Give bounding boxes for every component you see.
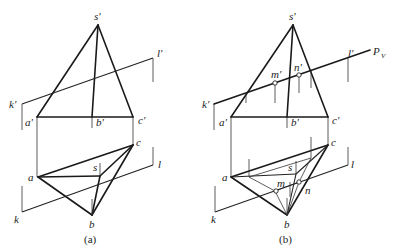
label-c-prime-b: c': [332, 114, 340, 126]
front-view-b: [214, 25, 370, 130]
label-s-b: s: [288, 161, 292, 173]
caption-a: (a): [84, 233, 97, 246]
top-view-b: [215, 137, 348, 215]
label-k: k: [14, 213, 20, 225]
label-n: n: [305, 184, 311, 196]
label-PV-subscript: V: [381, 52, 386, 60]
label-a: a: [28, 171, 34, 183]
label-c-prime: c': [138, 114, 146, 126]
top-view-a: [22, 145, 153, 215]
label-m: m: [277, 177, 285, 189]
panel-b: s' l' P V m' n' k' a' b' c' c a s l m n …: [202, 10, 386, 246]
label-k-prime-b: k': [202, 98, 210, 110]
label-l-b: l: [351, 158, 354, 170]
label-PV: P: [372, 45, 380, 57]
label-n-prime: n': [294, 61, 303, 73]
point-m: [274, 189, 278, 193]
label-c-b: c: [331, 136, 336, 148]
label-l: l: [158, 158, 161, 170]
label-a-prime-b: a': [219, 116, 228, 128]
label-l-prime-b: l': [348, 47, 354, 59]
label-b-prime-b: b': [291, 116, 300, 128]
label-s: s: [93, 161, 97, 173]
label-b-b: b: [284, 218, 290, 230]
label-b: b: [89, 218, 95, 230]
label-s-prime-b: s': [289, 10, 296, 22]
label-a-b: a: [222, 171, 228, 183]
point-m-prime: [273, 81, 277, 85]
point-n-prime: [297, 73, 301, 77]
panel-a: s' l' k' a' b' c' c a s l k b (a): [9, 10, 163, 246]
label-s-prime: s': [94, 10, 101, 22]
label-b-prime: b': [96, 116, 105, 128]
diagram-canvas: s' l' k' a' b' c' c a s l k b (a): [0, 0, 397, 252]
label-c: c: [136, 136, 141, 148]
label-k-b: k: [211, 213, 217, 225]
point-n: [297, 180, 301, 184]
caption-b: (b): [279, 233, 292, 246]
label-l-prime: l': [157, 47, 163, 59]
front-view-a: [22, 25, 153, 130]
label-k-prime: k': [9, 98, 17, 110]
label-m-prime: m': [271, 68, 282, 80]
label-a-prime: a': [25, 116, 34, 128]
